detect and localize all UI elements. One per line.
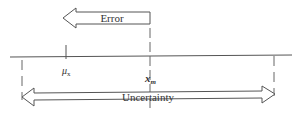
measured-value-label: xm — [144, 72, 157, 86]
error-uncertainty-diagram: Error Uncertainty μx xm — [0, 0, 300, 121]
number-line — [10, 55, 292, 57]
uncertainty-label: Uncertainty — [122, 91, 174, 103]
error-label: Error — [100, 12, 124, 24]
true-value-label: μx — [61, 65, 71, 78]
